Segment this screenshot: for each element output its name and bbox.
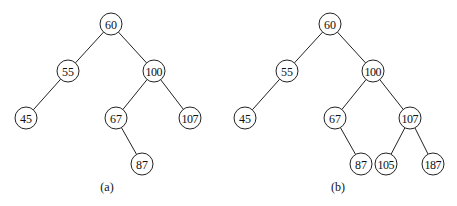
edge-60-to-100 [118,32,146,63]
node-label: 45 [20,112,32,126]
edge-100-to-67 [123,80,147,110]
edge-100-to-107 [161,80,184,110]
tree-node: 45 [234,107,256,129]
node-label: 60 [105,18,117,32]
tree-a-nodes: 6055100456710787 [15,13,201,175]
node-label: 60 [324,18,336,32]
node-label: 187 [425,158,442,172]
edge-60-to-55 [294,32,322,63]
tree-node: 45 [15,107,37,129]
tree-node: 67 [105,107,127,129]
edge-67-to-87 [340,128,355,155]
tree-b-nodes: 6055100456710787105187 [234,13,444,175]
tree-node: 67 [324,107,346,129]
node-label: 67 [329,112,341,126]
edge-107-to-105 [391,128,405,154]
edge-107-to-187 [415,128,428,154]
node-label: 100 [365,65,382,79]
tree-node: 87 [350,153,372,175]
tree-node: 107 [399,107,421,129]
node-label: 107 [402,112,419,126]
edge-60-to-55 [75,32,103,63]
tree-caption-a: (a) [100,180,113,194]
edge-100-to-107 [380,80,403,110]
node-label: 100 [146,65,163,79]
edges-layer [33,32,428,154]
tree-node: 107 [179,107,201,129]
tree-node: 105 [375,153,397,175]
node-label: 87 [136,158,148,172]
nodes-layer: 60551004567107876055100456710787105187 [15,13,444,175]
node-label: 107 [182,112,199,126]
node-label: 105 [378,158,395,172]
tree-node: 100 [362,60,384,82]
tree-node: 60 [100,13,122,35]
edge-60-to-100 [337,32,365,63]
tree-node: 55 [57,60,79,82]
node-label: 87 [355,158,367,172]
edge-100-to-67 [342,80,366,110]
tree-diagram-canvas: 60551004567107876055100456710787105187 (… [0,0,457,206]
tree-node: 87 [131,153,153,175]
tree-node: 60 [319,13,341,35]
tree-a-edges [33,32,183,154]
node-label: 45 [239,112,251,126]
node-label: 55 [62,65,74,79]
node-label: 55 [281,65,293,79]
edge-55-to-45 [252,79,279,110]
tree-node: 55 [276,60,298,82]
tree-b-edges [252,32,428,154]
edge-55-to-45 [33,79,60,110]
tree-caption-b: (b) [331,180,345,194]
tree-node: 100 [143,60,165,82]
tree-node: 187 [422,153,444,175]
captions-layer: (a)(b) [100,180,345,194]
edge-67-to-87 [121,128,136,155]
node-label: 67 [110,112,122,126]
